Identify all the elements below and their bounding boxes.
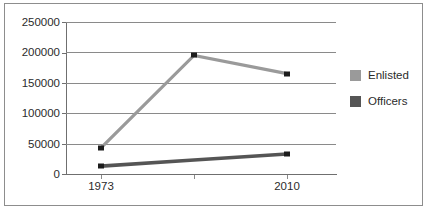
legend-label-enlisted: Enlisted [368, 69, 409, 81]
y-axis-label-200000: 200000 [4, 46, 60, 58]
legend-swatch-icon-officers [350, 96, 361, 107]
plot-area [66, 22, 336, 174]
legend-item-officers: Officers [350, 88, 422, 114]
line-officers [101, 154, 287, 166]
y-axis-label-150000: 150000 [4, 77, 60, 89]
y-axis-label-0: 0 [4, 168, 60, 180]
x-axis-label-1973: 1973 [71, 180, 131, 192]
legend-label-officers: Officers [368, 95, 407, 107]
y-axis-label-100000: 100000 [4, 107, 60, 119]
x-axis-line [66, 174, 337, 175]
x-tick-mark [287, 175, 288, 179]
data-point-marker [284, 71, 290, 76]
x-tick-mark [194, 175, 195, 179]
chart-figure: 250000 200000 150000 100000 50000 0 1973… [0, 0, 428, 212]
y-axis-label-50000: 50000 [4, 138, 60, 150]
legend-item-enlisted: Enlisted [350, 62, 422, 88]
legend-swatch-icon-enlisted [350, 70, 361, 81]
data-point-marker [98, 164, 104, 169]
x-tick-mark [101, 175, 102, 179]
x-axis-label-2010: 2010 [257, 180, 317, 192]
y-axis-labels: 250000 200000 150000 100000 50000 0 [0, 0, 60, 212]
data-point-marker [284, 151, 290, 156]
series-lines [66, 22, 336, 174]
chart-legend: Enlisted Officers [350, 62, 422, 114]
y-axis-label-250000: 250000 [4, 16, 60, 28]
line-enlisted [101, 55, 287, 147]
data-point-marker [98, 145, 104, 150]
data-point-marker [191, 53, 197, 58]
